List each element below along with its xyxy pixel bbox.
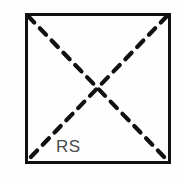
figure-canvas: RS (0, 0, 182, 186)
rs-label: RS (56, 138, 81, 155)
figure-drawing (0, 0, 182, 186)
